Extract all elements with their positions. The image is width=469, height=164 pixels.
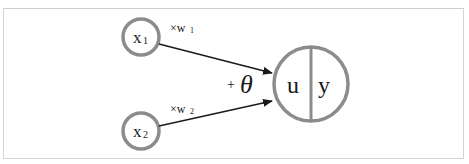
neuron-u-label: u (287, 72, 299, 98)
input-x2-label: x (133, 122, 142, 141)
input-x2-subscript: 2 (143, 129, 148, 140)
input-node-x2: x 2 (123, 113, 159, 149)
arrow-x1-to-neuron (159, 44, 272, 73)
perceptron-diagram: x 1 x 2 ×w 1 ×w 2 + θ u y (0, 0, 469, 164)
svg-text:×w: ×w (170, 102, 186, 116)
input-node-x1: x 1 (123, 19, 159, 55)
svg-text:2: 2 (190, 107, 194, 116)
input-x1-label: x (133, 28, 142, 47)
neuron-node: u y (274, 47, 348, 121)
theta-symbol: θ (240, 70, 253, 99)
input-x1-subscript: 1 (143, 35, 148, 46)
weight-label-w2: ×w 2 (170, 102, 194, 116)
svg-text:×w: ×w (170, 21, 186, 35)
weight-label-w1: ×w 1 (170, 21, 194, 35)
svg-text:1: 1 (190, 26, 194, 35)
neuron-y-label: y (318, 72, 330, 98)
bias-plus: + (227, 77, 235, 92)
bias-label: + θ (227, 70, 253, 99)
